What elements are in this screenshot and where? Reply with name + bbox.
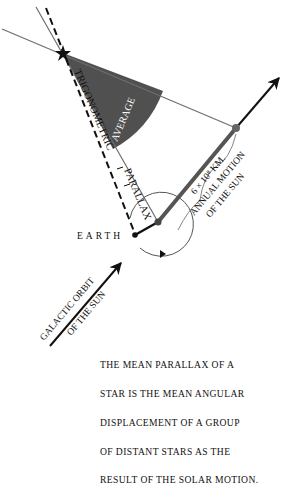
caption-line: THE MEAN PARALLAX OF A (100, 360, 282, 370)
earth-sun-segment (135, 222, 158, 235)
caption-line: RESULT OF THE SOLAR MOTION. (100, 475, 282, 485)
galactic-orbit-arrow (50, 263, 121, 346)
sun-position-dot (155, 219, 162, 226)
earth-label: EARTH (77, 231, 123, 241)
solar-motion-arrow (236, 78, 279, 128)
earth-dot (132, 232, 138, 238)
caption-line: DISPLACEMENT OF A GROUP (100, 418, 282, 428)
sun-later-position-dot (232, 124, 240, 132)
caption-line: OF DISTANT STARS AS THE (100, 447, 282, 457)
orbit-direction-arrow-icon (160, 250, 166, 258)
caption-line: STAR IS THE MEAN ANGULAR (100, 389, 282, 399)
caption: THE MEAN PARALLAX OF A STAR IS THE MEAN … (100, 341, 282, 487)
